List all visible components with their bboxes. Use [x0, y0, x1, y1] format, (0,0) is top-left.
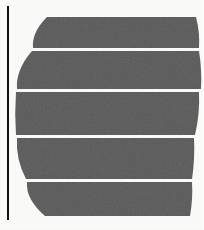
bands-svg: [0, 0, 204, 230]
band-shape-layer: [0, 0, 204, 230]
page-canvas: Scanned page with dark horizontal bands: [0, 0, 204, 230]
spine-rule: [7, 6, 9, 220]
right-margin-edge: [202, 0, 204, 230]
band-grain-overlay: [0, 0, 204, 230]
